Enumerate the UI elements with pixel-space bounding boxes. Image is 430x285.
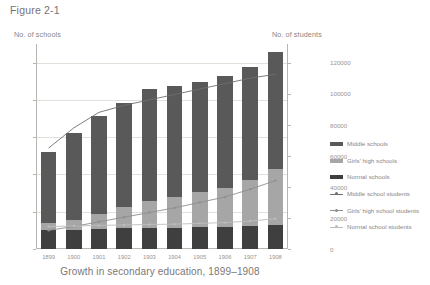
line-normal-school-students-point[interactable]: [73, 225, 75, 227]
y2-axis-tick-label: 120000: [330, 59, 351, 66]
legend-item-label: Girls' high school students: [347, 208, 419, 214]
y2-axis-tickmark: [288, 218, 291, 219]
line-normal-school-students[interactable]: [49, 219, 276, 227]
line-normal-school-students-point[interactable]: [224, 221, 226, 223]
y2-axis-tickmark: [288, 94, 291, 95]
y2-axis-tickmark: [288, 63, 291, 64]
x-axis-tick-label: 1905: [187, 254, 212, 260]
line-girls-high-school-students-point[interactable]: [123, 216, 125, 218]
x-axis-tick-label: 1900: [61, 254, 86, 260]
legend-swatch-icon: [330, 159, 343, 163]
legend-item[interactable]: Middle school students: [330, 186, 428, 203]
y2-axis-tick-label: 100000: [330, 90, 351, 97]
x-axis-tick-label: 1901: [86, 254, 111, 260]
chart-caption: Growth in secondary education, 1899–1908: [0, 266, 320, 277]
y2-axis-tick-label: 0: [330, 246, 333, 253]
legend-line-marker-icon: [330, 224, 343, 231]
y2-axis-tickmark: [288, 125, 291, 126]
line-series-layer: [36, 44, 288, 249]
y2-axis-tickmark: [288, 156, 291, 157]
line-girls-high-school-students-point[interactable]: [199, 201, 201, 203]
y2-axis-tickmark: [288, 187, 291, 188]
legend-item-label: Girls' high schools: [347, 158, 397, 164]
line-middle-school-students[interactable]: [49, 74, 276, 148]
legend-item-label: Normal school students: [347, 224, 412, 230]
line-girls-high-school-students-point[interactable]: [274, 179, 276, 181]
legend-line-marker-icon: [330, 191, 343, 198]
line-normal-school-students-point[interactable]: [47, 225, 49, 227]
line-girls-high-school-students-point[interactable]: [148, 211, 150, 213]
line-normal-school-students-point[interactable]: [123, 224, 125, 226]
figure-container: Figure 2-1 No. of schools No. of student…: [0, 0, 430, 285]
y2-axis-tickmark: [288, 249, 291, 250]
line-girls-high-school-students-point[interactable]: [98, 221, 100, 223]
legend-line-marker-icon: [330, 207, 343, 214]
legend-line-icon: [330, 227, 343, 228]
legend-line-icon: [330, 194, 343, 195]
left-axis-title: No. of schools: [14, 30, 61, 39]
line-girls-high-school-students-point[interactable]: [47, 229, 49, 231]
x-axis-tick-label: 1903: [137, 254, 162, 260]
plot-area: 0100200300400500020000400006000080000100…: [36, 44, 288, 249]
y2-axis-tick-label: 80000: [330, 122, 347, 129]
y-axis-tickmark: [33, 249, 36, 250]
legend-item-label: Middle schools: [347, 141, 388, 147]
x-axis-tick-label: 1904: [162, 254, 187, 260]
legend-swatch-icon: [330, 175, 343, 179]
legend-item[interactable]: Normal school students: [330, 219, 428, 236]
legend-line-icon: [330, 210, 343, 211]
right-axis-title: No. of students: [272, 30, 322, 39]
legend-item-label: Normal schools: [347, 174, 390, 180]
line-girls-high-school-students[interactable]: [49, 181, 276, 231]
legend-item[interactable]: Girls' high school students: [330, 202, 428, 219]
figure-label: Figure 2-1: [10, 4, 60, 16]
x-axis-tick-label: 1908: [263, 254, 288, 260]
line-normal-school-students-point[interactable]: [98, 224, 100, 226]
line-normal-school-students-point[interactable]: [249, 220, 251, 222]
legend-item[interactable]: Middle schools: [330, 136, 428, 153]
line-normal-school-students-point[interactable]: [274, 218, 276, 220]
line-normal-school-students-point[interactable]: [173, 223, 175, 225]
line-normal-school-students-point[interactable]: [148, 223, 150, 225]
legend-swatch-icon: [330, 142, 343, 146]
legend-item[interactable]: Girls' high schools: [330, 153, 428, 170]
line-girls-high-school-students-point[interactable]: [224, 196, 226, 198]
legend-item[interactable]: Normal schools: [330, 169, 428, 186]
line-girls-high-school-students-point[interactable]: [173, 207, 175, 209]
line-girls-high-school-students-point[interactable]: [249, 188, 251, 190]
x-axis-tick-label: 1899: [36, 254, 61, 260]
x-axis-tick-label: 1907: [238, 254, 263, 260]
x-axis-tick-label: 1906: [212, 254, 237, 260]
legend-item-label: Middle school students: [347, 191, 410, 197]
chart-legend: Middle schoolsGirls' high schoolsNormal …: [330, 136, 428, 236]
x-axis-tick-label: 1902: [112, 254, 137, 260]
line-normal-school-students-point[interactable]: [199, 222, 201, 224]
